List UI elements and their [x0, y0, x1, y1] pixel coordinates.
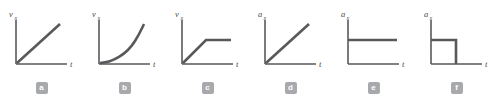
kinematics-figure: v x t a v x t b	[0, 0, 502, 107]
panel-label-badge-f: f	[451, 82, 463, 94]
panel-d: a x t d	[249, 0, 332, 107]
panel-c-y-axis-label-subscript: x	[180, 15, 184, 21]
panel-b-y-axis-label: v	[92, 9, 96, 19]
panel-a: v x t a	[0, 0, 83, 107]
panel-label-badge-c: c	[202, 82, 214, 94]
panel-b: v x t b	[83, 0, 166, 107]
panel-b-plot: v x t	[83, 4, 166, 78]
panel-b-x-axis-label: t	[153, 59, 156, 69]
panel-b-y-axis-label-subscript: x	[97, 15, 101, 21]
panel-e-badge-row: e	[332, 82, 415, 98]
panel-b-badge-row: b	[83, 82, 166, 98]
panel-a-badge-row: a	[0, 82, 83, 98]
panel-d-plot: a x t	[249, 4, 332, 78]
panel-c-curve	[183, 40, 231, 63]
panel-e-plot: a x t	[332, 4, 415, 78]
panel-e-y-axis-label-subscript: x	[346, 15, 350, 21]
panel-f-x-axis-label: t	[485, 59, 488, 69]
panel-f-y-axis-label-subscript: x	[429, 15, 433, 21]
panel-c-plot: v x t	[166, 4, 249, 78]
panel-c-y-axis-label: v	[175, 9, 179, 19]
panel-c: v x t c	[166, 0, 249, 107]
panel-label-badge-b: b	[119, 82, 131, 94]
panel-f-plot: a x t	[415, 4, 498, 78]
panel-d-y-axis-label-subscript: x	[263, 15, 267, 21]
panel-c-badge-row: c	[166, 82, 249, 98]
panel-a-curve	[17, 24, 60, 63]
panel-e-y-axis-label: a	[341, 9, 345, 19]
panel-a-y-axis-label-subscript: x	[14, 15, 18, 21]
panel-a-plot: v x t	[0, 4, 83, 78]
panel-c-x-axis-label: t	[236, 59, 239, 69]
panel-a-x-axis-label: t	[70, 59, 73, 69]
panel-d-y-axis-label: a	[258, 9, 262, 19]
panel-f-curve	[431, 40, 456, 64]
panel-f-badge-row: f	[415, 82, 498, 98]
panel-b-curve	[100, 24, 144, 63]
panel-label-badge-a: a	[36, 82, 48, 94]
panel-e-x-axis-label: t	[402, 59, 405, 69]
panel-d-badge-row: d	[249, 82, 332, 98]
panel-label-badge-d: d	[285, 82, 297, 94]
panel-e: a x t e	[332, 0, 415, 107]
panel-f: a x t f	[415, 0, 498, 107]
panel-a-y-axis-label: v	[9, 9, 13, 19]
panel-d-curve	[266, 24, 309, 63]
panel-d-x-axis-label: t	[319, 59, 322, 69]
panel-label-badge-e: e	[368, 82, 380, 94]
panel-f-y-axis-label: a	[424, 9, 428, 19]
